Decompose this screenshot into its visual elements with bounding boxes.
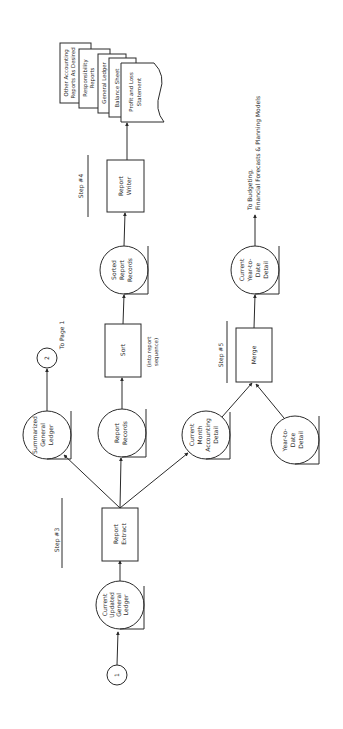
svg-text:Records: Records	[126, 258, 133, 282]
svg-text:Detail: Detail	[262, 261, 269, 279]
svg-text:Step #5: Step #5	[217, 343, 225, 368]
to-page-1-note: To Page 1	[58, 321, 66, 351]
svg-text:Current: Current	[101, 593, 108, 616]
svg-text:Ledger: Ledger	[47, 424, 55, 445]
file-current-updated-general-ledger: Current Updated General Ledger	[96, 581, 144, 629]
arrow-connector1-to-gl	[117, 632, 118, 665]
svg-text:Report: Report	[117, 175, 125, 196]
svg-text:Summarized: Summarized	[31, 416, 38, 454]
svg-text:Report: Report	[118, 259, 126, 280]
svg-text:Current: Current	[188, 423, 195, 446]
svg-text:Responsibility: Responsibility	[82, 59, 89, 97]
svg-text:Extract: Extract	[120, 523, 127, 545]
svg-text:Date: Date	[254, 263, 261, 278]
svg-text:Balance Sheet: Balance Sheet	[114, 69, 120, 108]
process-sort: Sort (into report sequence)	[105, 324, 160, 377]
file-year-to-date-detail: Year-to- Date Detail	[271, 416, 319, 464]
arrow-extract-to-summarized-gl	[64, 455, 120, 508]
svg-text:Detail: Detail	[212, 426, 219, 444]
connector-1-label: 1	[113, 673, 120, 677]
svg-text:Year-to-: Year-to-	[246, 259, 253, 283]
svg-text:Writer: Writer	[125, 176, 132, 195]
process-merge: Merge	[236, 328, 272, 382]
step-3-label: Step #3	[53, 498, 62, 568]
step-5-label: Step #5	[217, 321, 227, 383]
svg-text:Accounting: Accounting	[204, 418, 212, 452]
svg-text:Reports: Reports	[89, 67, 96, 88]
svg-text:General Ledger: General Ledger	[101, 61, 108, 103]
svg-text:Sort: Sort	[119, 343, 126, 356]
arrow-month-detail-to-merge	[222, 383, 252, 417]
svg-text:Current: Current	[238, 258, 245, 281]
connector-2: 2 To Page 1	[37, 321, 66, 368]
arrow-extract-to-report-records	[120, 458, 121, 508]
svg-text:Report: Report	[112, 523, 120, 544]
svg-text:sequence): sequence)	[153, 338, 160, 366]
file-current-year-to-date-detail: Current Year-to- Date Detail	[231, 246, 279, 294]
arrow-sorted-to-writer	[124, 213, 125, 246]
svg-text:Other Accounting: Other Accounting	[63, 49, 70, 96]
svg-text:Merge: Merge	[250, 345, 258, 364]
arrow-sort-to-sorted-records	[123, 295, 124, 324]
svg-text:Step #4: Step #4	[77, 174, 85, 199]
report-documents-stack: Other Accounting Reports As Desired Resp…	[60, 43, 164, 122]
flowchart-canvas: 1 Current Updated General Ledger Step #3…	[0, 0, 343, 729]
svg-text:Records: Records	[121, 421, 128, 445]
svg-text:Date: Date	[289, 433, 296, 448]
svg-text:Report: Report	[113, 422, 121, 443]
svg-text:Step #3: Step #3	[53, 528, 61, 553]
process-report-extract: Report Extract	[102, 508, 138, 561]
connector-1: 1	[107, 665, 127, 685]
arrow-merge-to-current-ytd	[254, 295, 255, 328]
file-summarized-general-ledger: Summarized General Ledger	[23, 411, 71, 459]
arrow-ytd-detail-to-merge	[256, 384, 284, 418]
svg-text:Statement: Statement	[136, 78, 142, 106]
step-4-label: Step #4	[77, 155, 88, 217]
svg-text:Sorted: Sorted	[110, 260, 117, 280]
svg-text:Profit and Loss: Profit and Loss	[128, 72, 134, 112]
svg-text:Financial Forecasts & Planning: Financial Forecasts & Planning Models	[254, 96, 262, 210]
file-report-records: Report Records	[98, 409, 146, 457]
svg-text:Month: Month	[196, 425, 203, 444]
file-current-month-accounting-detail: Current Month Accounting Detail	[182, 411, 230, 459]
svg-text:Year-to-: Year-to-	[281, 429, 288, 453]
svg-text:General: General	[115, 593, 122, 617]
document-profit-and-loss: Profit and Loss Statement	[121, 63, 164, 122]
svg-text:Detail: Detail	[297, 431, 304, 449]
file-sorted-report-records: Sorted Report Records	[100, 246, 148, 294]
svg-text:To Budgeting,: To Budgeting,	[246, 169, 254, 211]
process-report-writer: Report Writer	[107, 160, 144, 212]
svg-text:Reports As Desired: Reports As Desired	[70, 47, 77, 98]
arrow-extract-to-month-detail	[120, 453, 188, 508]
svg-text:2: 2	[43, 356, 50, 360]
svg-text:General: General	[39, 423, 46, 447]
sort-note: (into report	[146, 337, 153, 368]
svg-text:Ledger: Ledger	[122, 594, 130, 615]
output-note-budgeting: To Budgeting, Financial Forecasts & Plan…	[246, 96, 262, 211]
